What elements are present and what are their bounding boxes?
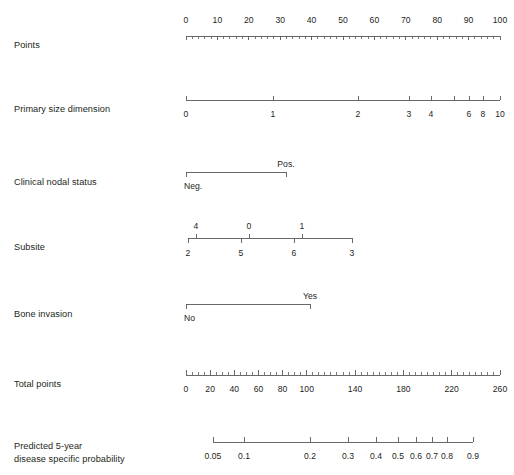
tick-label-points-90: 90 bbox=[464, 15, 474, 25]
row-label-primary-size-dimension: Primary size dimension bbox=[14, 103, 110, 116]
tick-label-total-points-140: 140 bbox=[348, 384, 362, 394]
tick-label-primary-size-dimension-0: 0 bbox=[184, 109, 189, 119]
tick-label-clinical-nodal-status-Pos: Pos. bbox=[277, 159, 294, 169]
tick-label-clinical-nodal-status-Neg: Neg. bbox=[184, 181, 202, 191]
tick-label-points-70: 70 bbox=[401, 15, 411, 25]
row-label-predicted-probability: Predicted 5-year disease specific probab… bbox=[14, 440, 125, 465]
tick-label-points-60: 60 bbox=[370, 15, 380, 25]
tick-label-predicted-probability-0.4: 0.4 bbox=[370, 451, 382, 461]
tick-label-points-50: 50 bbox=[338, 15, 348, 25]
tick-label-above-subsite-4: 4 bbox=[194, 221, 199, 231]
tick-label-below-subsite-2: 2 bbox=[186, 248, 191, 258]
row-label-total-points: Total points bbox=[14, 378, 61, 391]
tick-label-points-10: 10 bbox=[213, 15, 223, 25]
row-label-points: Points bbox=[14, 39, 40, 52]
tick-label-total-points-80: 80 bbox=[278, 384, 288, 394]
tick-label-above-subsite-1: 1 bbox=[300, 221, 305, 231]
tick-label-below-subsite-3: 3 bbox=[350, 248, 355, 258]
tick-label-above-subsite-0: 0 bbox=[247, 221, 252, 231]
tick-label-primary-size-dimension-1: 1 bbox=[271, 109, 276, 119]
nomogram-canvas bbox=[0, 0, 514, 475]
tick-label-predicted-probability-0.2: 0.2 bbox=[304, 451, 316, 461]
tick-label-points-80: 80 bbox=[432, 15, 442, 25]
tick-label-predicted-probability-0.8: 0.8 bbox=[441, 451, 453, 461]
tick-label-primary-size-dimension-3: 3 bbox=[407, 109, 412, 119]
tick-label-bone-invasion-Yes: Yes bbox=[303, 291, 317, 301]
tick-label-total-points-0: 0 bbox=[184, 384, 189, 394]
row-label-subsite: Subsite bbox=[14, 241, 45, 254]
tick-label-predicted-probability-0.1: 0.1 bbox=[238, 451, 250, 461]
tick-label-bone-invasion-No: No bbox=[184, 313, 195, 323]
tick-label-predicted-probability-0.05: 0.05 bbox=[205, 451, 222, 461]
tick-label-primary-size-dimension-8: 8 bbox=[481, 109, 486, 119]
tick-label-total-points-100: 100 bbox=[300, 384, 314, 394]
tick-label-below-subsite-6: 6 bbox=[292, 248, 297, 258]
tick-label-total-points-220: 220 bbox=[444, 384, 458, 394]
tick-label-primary-size-dimension-4: 4 bbox=[429, 109, 434, 119]
tick-label-primary-size-dimension-10: 10 bbox=[495, 109, 505, 119]
tick-label-primary-size-dimension-2: 2 bbox=[356, 109, 361, 119]
tick-label-total-points-260: 260 bbox=[493, 384, 507, 394]
tick-label-points-0: 0 bbox=[184, 15, 189, 25]
tick-label-predicted-probability-0.5: 0.5 bbox=[392, 451, 404, 461]
tick-label-total-points-40: 40 bbox=[229, 384, 239, 394]
tick-label-total-points-60: 60 bbox=[254, 384, 264, 394]
row-label-bone-invasion: Bone invasion bbox=[14, 308, 72, 321]
row-label-clinical-nodal-status: Clinical nodal status bbox=[14, 176, 97, 189]
tick-label-total-points-180: 180 bbox=[396, 384, 410, 394]
tick-label-total-points-20: 20 bbox=[205, 384, 215, 394]
tick-label-primary-size-dimension-6: 6 bbox=[467, 109, 472, 119]
tick-label-points-40: 40 bbox=[307, 15, 317, 25]
tick-label-points-30: 30 bbox=[275, 15, 285, 25]
tick-label-predicted-probability-0.7: 0.7 bbox=[426, 451, 438, 461]
tick-label-predicted-probability-0.9: 0.9 bbox=[467, 451, 479, 461]
tick-label-predicted-probability-0.6: 0.6 bbox=[410, 451, 422, 461]
tick-label-points-20: 20 bbox=[244, 15, 254, 25]
tick-label-predicted-probability-0.3: 0.3 bbox=[342, 451, 354, 461]
tick-label-points-100: 100 bbox=[493, 15, 507, 25]
tick-label-below-subsite-5: 5 bbox=[239, 248, 244, 258]
